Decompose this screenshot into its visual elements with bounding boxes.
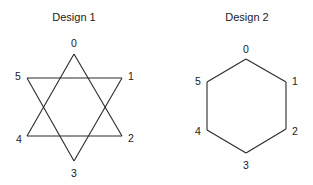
vertex-label-1: 1 (128, 70, 134, 82)
edge-0-1 (246, 59, 286, 82)
vertex-label-2: 2 (128, 132, 134, 144)
vertex-labels: 012345 (195, 43, 298, 171)
vertex-labels: 012345 (15, 37, 134, 179)
vertex-label-0: 0 (243, 43, 249, 55)
design-2-title: Design 2 (225, 11, 268, 23)
edge-3-5 (27, 78, 74, 161)
vertex-label-5: 5 (15, 70, 21, 82)
diagram-canvas: Design 1 012345 Design 2 012345 (0, 0, 313, 185)
edge-0-2 (74, 54, 122, 136)
vertex-label-4: 4 (16, 133, 22, 145)
vertex-label-3: 3 (71, 167, 77, 179)
edge-3-4 (207, 130, 246, 153)
design-1-diagram: Design 1 012345 (15, 11, 134, 179)
hexagram-edges (27, 54, 122, 161)
vertex-label-2: 2 (292, 125, 298, 137)
design-1-title: Design 1 (52, 11, 95, 23)
hexagon-edges (207, 59, 286, 153)
vertex-label-3: 3 (243, 159, 249, 171)
vertex-label-1: 1 (292, 75, 298, 87)
edge-4-0 (27, 54, 74, 136)
vertex-label-4: 4 (195, 125, 201, 137)
edge-1-3 (74, 78, 122, 161)
design-2-diagram: Design 2 012345 (195, 11, 298, 171)
edge-2-3 (246, 129, 286, 153)
edge-5-0 (207, 59, 246, 82)
vertex-label-5: 5 (195, 75, 201, 87)
vertex-label-0: 0 (71, 37, 77, 49)
